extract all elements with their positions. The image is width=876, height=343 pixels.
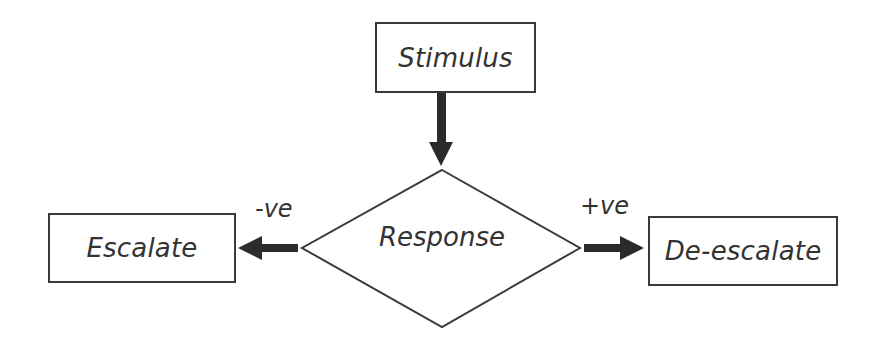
flowchart-canvas: Stimulus Response Escalate De-escalate -… [0,0,876,343]
response-label: Response [302,222,582,252]
stimulus-label: Stimulus [398,43,513,73]
positive-edge-label: +ve [580,192,629,220]
deescalate-label: De-escalate [665,236,822,266]
escalate-node: Escalate [48,213,236,283]
arrow-stimulus-to-response [429,93,453,166]
arrow-response-to-deescalate [584,236,644,260]
negative-edge-label: -ve [255,195,293,223]
arrow-response-to-escalate [238,236,298,260]
stimulus-node: Stimulus [375,22,536,93]
deescalate-node: De-escalate [648,216,838,286]
escalate-label: Escalate [86,233,197,263]
